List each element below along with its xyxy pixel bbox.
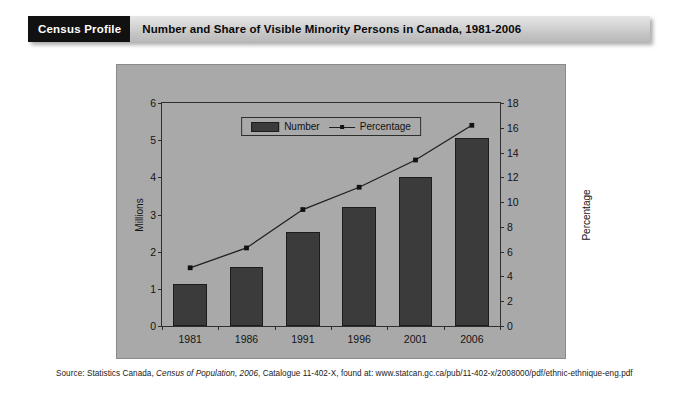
tick-mark (158, 177, 162, 178)
tick-mark (500, 177, 504, 178)
data-point-1981 (188, 265, 193, 270)
source-prefix: Source: Statistics Canada, (56, 369, 156, 378)
y-left-tick-3: 3 (150, 209, 156, 220)
source-publication: Census of Population, 2006 (156, 369, 258, 378)
tick-mark (500, 301, 504, 302)
tick-mark (500, 153, 504, 154)
data-point-1991 (300, 207, 305, 212)
chart-panel: 0123456 024681012141618 1981198619911996… (116, 64, 566, 359)
legend-label-number: Number (284, 121, 320, 132)
source-note: Source: Statistics Canada, Census of Pop… (56, 369, 633, 378)
tick-mark (500, 276, 504, 277)
tick-mark (500, 128, 504, 129)
plot-area: 0123456 024681012141618 1981198619911996… (161, 102, 501, 327)
y-right-tick-18: 18 (507, 98, 519, 109)
source-suffix: , Catalogue 11-402-X, found at: www.stat… (258, 369, 633, 378)
y-axis-left-title: Millions (134, 198, 145, 231)
tick-mark (158, 252, 162, 253)
y-left-tick-4: 4 (150, 172, 156, 183)
x-tick-label-2001: 2001 (387, 326, 443, 348)
y-left-tick-0: 0 (150, 321, 156, 332)
y-right-tick-14: 14 (507, 147, 519, 158)
y-left-tick-6: 6 (150, 98, 156, 109)
y-axis-right-title: Percentage (581, 189, 592, 240)
x-tick-label-1991: 1991 (275, 326, 331, 348)
banner-title-container: Number and Share of Visible Minority Per… (130, 16, 650, 42)
census-profile-banner: Census Profile Number and Share of Visib… (28, 16, 650, 42)
tick-mark (500, 103, 504, 104)
chart-legend: Number Percentage (241, 117, 421, 136)
x-tick-mark (500, 326, 501, 330)
data-point-2006 (469, 123, 474, 128)
line-series-percentage (162, 103, 500, 326)
y-right-tick-10: 10 (507, 197, 519, 208)
x-tick-label-2006: 2006 (444, 326, 500, 348)
data-point-2001 (413, 158, 418, 163)
legend-label-percentage: Percentage (360, 121, 411, 132)
y-left-tick-2: 2 (150, 246, 156, 257)
y-right-tick-16: 16 (507, 123, 519, 134)
y-left-tick-1: 1 (150, 284, 156, 295)
legend-bar-swatch-icon (251, 122, 279, 132)
data-point-1986 (244, 246, 249, 251)
y-right-tick-8: 8 (507, 222, 513, 233)
legend-item-number: Number (251, 121, 320, 132)
legend-line-swatch-icon (329, 123, 355, 131)
tick-mark (158, 140, 162, 141)
page-title: Number and Share of Visible Minority Per… (142, 23, 521, 35)
y-left-tick-5: 5 (150, 135, 156, 146)
tick-mark (500, 252, 504, 253)
y-right-tick-4: 4 (507, 271, 513, 282)
x-tick-label-1986: 1986 (218, 326, 274, 348)
tick-mark (158, 103, 162, 104)
banner-tag-label: Census Profile (28, 16, 130, 42)
tick-mark (158, 289, 162, 290)
x-tick-label-1996: 1996 (331, 326, 387, 348)
tick-mark (500, 227, 504, 228)
tick-mark (500, 202, 504, 203)
x-tick-label-1981: 1981 (162, 326, 218, 348)
y-right-tick-0: 0 (507, 321, 513, 332)
y-right-tick-6: 6 (507, 246, 513, 257)
legend-item-percentage: Percentage (329, 121, 411, 132)
y-right-tick-2: 2 (507, 296, 513, 307)
y-right-tick-12: 12 (507, 172, 519, 183)
percentage-polyline (190, 125, 472, 267)
tick-mark (158, 215, 162, 216)
x-axis-labels: 198119861991199620012006 (162, 326, 500, 348)
data-point-1996 (357, 185, 362, 190)
